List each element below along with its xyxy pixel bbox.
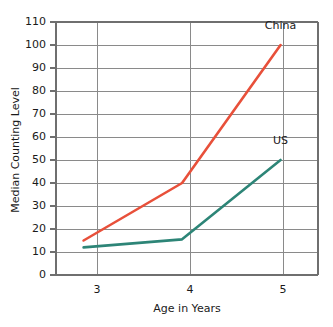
x-tick-label: 5 [280, 283, 287, 296]
y-tick-label: 70 [32, 107, 46, 120]
y-tick-label: 90 [32, 61, 46, 74]
line-chart: 110 100 90 80 70 60 50 40 30 20 10 0 3 4… [0, 0, 333, 327]
y-tick-label: 20 [32, 222, 46, 235]
y-tick-label: 80 [32, 84, 46, 97]
y-tick-label: 40 [32, 176, 46, 189]
vertical-gridlines [97, 22, 283, 275]
y-tick-label: 60 [32, 130, 46, 143]
x-tick-label: 3 [94, 283, 101, 296]
y-tick-label: 110 [25, 15, 46, 28]
series-line-china [84, 45, 281, 241]
series-label-us: US [273, 134, 288, 147]
x-axis-title: Age in Years [153, 302, 221, 315]
x-tick-label: 4 [187, 283, 194, 296]
y-tick-label: 30 [32, 199, 46, 212]
series-label-china: China [265, 19, 296, 32]
x-tick-labels: 3 4 5 [94, 283, 287, 296]
chart-page: 110 100 90 80 70 60 50 40 30 20 10 0 3 4… [0, 0, 333, 327]
series-line-us [84, 160, 281, 247]
y-tick-label: 50 [32, 153, 46, 166]
y-tick-label: 10 [32, 245, 46, 258]
y-tick-labels: 110 100 90 80 70 60 50 40 30 20 10 0 [25, 15, 46, 281]
y-tick-label: 0 [39, 268, 46, 281]
y-tick-marks [50, 22, 56, 275]
y-tick-label: 100 [25, 38, 46, 51]
y-axis-title: Median Counting Level [9, 87, 22, 213]
